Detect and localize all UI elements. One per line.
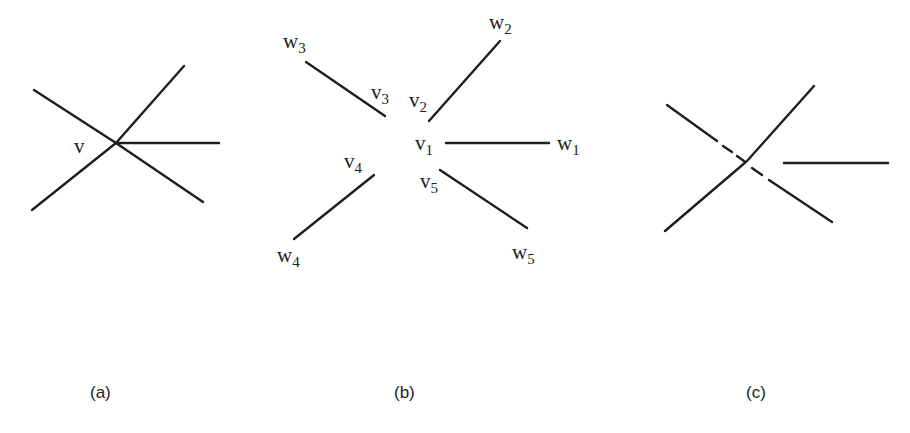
label-w1: w1 — [557, 131, 580, 158]
label-w2: w2 — [489, 10, 512, 37]
edge-v4-w4 — [294, 175, 374, 239]
panel-b: v1 w1 v2 w2 v3 w3 v4 w4 v5 w5 — [277, 10, 580, 270]
panel-a: v — [32, 66, 219, 210]
panel-c — [665, 86, 888, 231]
label-w4: w4 — [277, 243, 300, 270]
label-v4: v4 — [344, 149, 363, 176]
caption-c: (c) — [746, 383, 766, 402]
edge-c-dash-3 — [752, 168, 762, 175]
caption-a: (a) — [90, 383, 111, 402]
figure-canvas: v v1 w1 v2 w2 v3 w3 v4 w4 v5 w5 — [0, 0, 910, 433]
caption-b: (b) — [394, 383, 415, 402]
edge-c-upper-left-solid — [667, 105, 717, 141]
edge-c-dash-2 — [737, 156, 744, 161]
label-w3: w3 — [283, 29, 306, 56]
vertex-label-v: v — [74, 134, 85, 158]
label-v1: v1 — [415, 131, 433, 158]
edge-c-dash-1 — [723, 146, 732, 152]
label-v2: v2 — [409, 88, 427, 115]
label-v3: v3 — [371, 80, 389, 107]
edge-a-upper-right — [116, 66, 184, 143]
label-v5: v5 — [420, 169, 438, 196]
edge-c-lower-right-solid — [769, 180, 832, 222]
edge-a-lower-right — [116, 143, 203, 202]
label-w5: w5 — [512, 240, 535, 267]
edge-v2-w2 — [429, 41, 500, 121]
edge-v5-w5 — [440, 170, 527, 228]
